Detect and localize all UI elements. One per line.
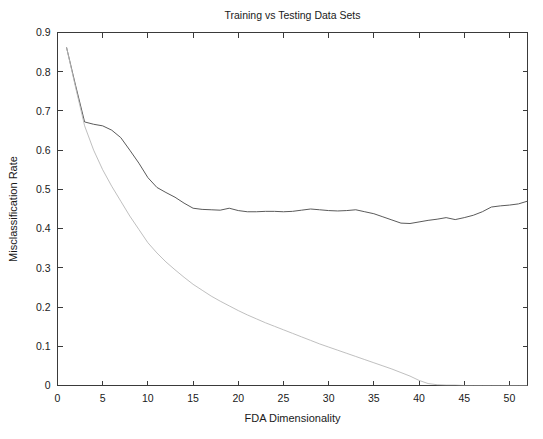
x-tick-label: 10 [142, 392, 154, 404]
x-tick-label: 45 [458, 392, 470, 404]
x-tick-label: 15 [187, 392, 199, 404]
y-tick-label: 0.4 [36, 222, 51, 234]
series-group [67, 47, 528, 385]
x-tick-label: 30 [323, 392, 335, 404]
x-tick-label: 50 [504, 392, 516, 404]
x-tick-label: 5 [100, 392, 106, 404]
y-tick-label: 0.2 [36, 301, 51, 313]
x-tick-label: 35 [368, 392, 380, 404]
x-tick-label: 0 [55, 392, 61, 404]
y-axis-title: Misclassification Rate [7, 156, 19, 262]
chart-title: Training vs Testing Data Sets [225, 9, 361, 21]
series-line-training [67, 47, 528, 385]
y-tick-label: 0.7 [36, 105, 51, 117]
axis-frame [58, 33, 528, 386]
line-chart: Training vs Testing Data Sets05101520253… [0, 0, 543, 439]
y-tick-label: 0.8 [36, 66, 51, 78]
x-tick-label: 25 [278, 392, 290, 404]
x-axis-title: FDA Dimensionality [245, 412, 341, 424]
y-tick-label: 0.9 [36, 26, 51, 38]
x-tick-label: 20 [232, 392, 244, 404]
y-tick-label: 0.6 [36, 144, 51, 156]
y-tick-label: 0.1 [36, 340, 51, 352]
y-tick-label: 0 [45, 379, 51, 391]
y-tick-label: 0.3 [36, 262, 51, 274]
series-line-testing [67, 47, 528, 223]
y-tick-label: 0.5 [36, 183, 51, 195]
x-tick-label: 40 [413, 392, 425, 404]
y-axis: 00.10.20.30.40.50.60.70.80.9 [36, 26, 528, 391]
figure-container: Training vs Testing Data Sets05101520253… [0, 0, 543, 439]
